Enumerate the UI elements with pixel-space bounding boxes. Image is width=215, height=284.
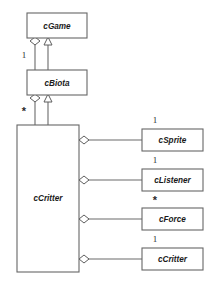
class-box-clistener[interactable]: cListener (142, 169, 203, 191)
relationship-generalization-biota-game (44, 37, 52, 70)
multiplicity-label-critter-sprite: 1 (153, 115, 158, 125)
class-box-cbiota[interactable]: cBiota (27, 70, 87, 95)
class-box-cgame[interactable]: cGame (27, 13, 87, 38)
relationship-aggregation-critter-listener (79, 176, 142, 184)
class-label-clistener: cListener (154, 176, 191, 185)
aggregation-diamond-critter-sprite (79, 136, 89, 144)
class-label-ccritter: cCritter (33, 194, 63, 203)
aggregation-diamond-critter-force (79, 215, 89, 223)
multiplicity-label-critter-force: * (153, 194, 158, 206)
aggregation-diamond-critter-listener (79, 176, 89, 184)
uml-class-diagram: cGame cBiota cCritter cSprite cListener … (0, 0, 215, 284)
relationship-generalization-critter-biota (44, 94, 52, 125)
class-label-cgame: cGame (43, 22, 71, 31)
class-label-ccritter-ref: cCritter (158, 255, 188, 264)
relationship-aggregation-game-biota (30, 37, 40, 70)
multiplicity-label-critter-listener: 1 (153, 155, 158, 165)
class-box-csprite[interactable]: cSprite (142, 129, 203, 151)
class-box-ccritter-ref[interactable]: cCritter (142, 248, 203, 270)
class-label-csprite: cSprite (159, 136, 187, 145)
class-label-cforce: cForce (159, 215, 186, 224)
multiplicity-label-game-biota: 1 (22, 50, 27, 60)
relationship-aggregation-biota-critter (30, 94, 40, 125)
relationship-aggregation-critter-sprite (79, 136, 142, 144)
multiplicity-label-biota-critter: * (22, 105, 27, 117)
class-box-ccritter[interactable]: cCritter (17, 125, 79, 272)
relationship-aggregation-critter-force (79, 215, 142, 223)
class-label-cbiota: cBiota (44, 79, 69, 88)
multiplicity-label-critter-critter: 1 (153, 234, 158, 244)
class-box-cforce[interactable]: cForce (142, 208, 203, 230)
aggregation-diamond-critter-critter (79, 255, 89, 263)
relationship-aggregation-critter-critter (79, 255, 142, 263)
diagram-canvas: cGame cBiota cCritter cSprite cListener … (0, 0, 215, 284)
